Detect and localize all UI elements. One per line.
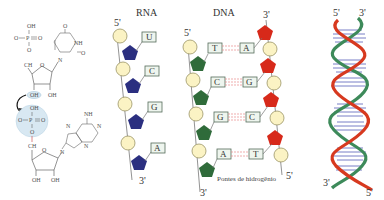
dna-title: DNA [213, 7, 235, 18]
rna-5-prime: 5' [114, 17, 121, 28]
phosphate-o-right-label: O [38, 35, 43, 41]
adenine-n1: N [66, 123, 71, 129]
rna-base-label: C [149, 66, 155, 76]
rna-phosphate [118, 97, 132, 111]
bottom-ribose-oh-left: OH [32, 177, 41, 183]
top-ribose-oh-right: OH [48, 92, 57, 98]
dna-phosphate [263, 42, 277, 56]
dna-sugar-right [257, 25, 273, 40]
helix-5-prime-bottom: 5' [366, 187, 373, 198]
dna-phosphate [186, 73, 200, 87]
dna-left-base-label: T [212, 43, 218, 53]
bottom-ribose-oh-right: OH [51, 177, 60, 183]
helix-3-prime-bottom: 3' [323, 177, 330, 188]
dna-phosphate [183, 40, 197, 54]
phosphate-o-left-label: O [14, 35, 19, 41]
dna-left-3-prime: 3' [200, 187, 207, 198]
rna-phosphate [116, 62, 130, 76]
dna-sugar-left [190, 56, 206, 71]
bottom-phosphate-o-right: O [41, 117, 46, 123]
dna-right-base-label: T [253, 149, 259, 159]
dna-left-base-label: G [217, 112, 224, 122]
hydrogen-bond [231, 152, 249, 156]
dna-phosphate [192, 144, 206, 158]
uracil-n: N [58, 57, 63, 63]
uracil-carbonyl-top: O [63, 23, 68, 29]
dna-phosphate [267, 76, 281, 90]
rna-3-prime: 3' [139, 175, 146, 186]
uracil-nh: NH [74, 40, 83, 46]
dna-phosphate [270, 111, 284, 125]
double-helix: 5' 3' [323, 7, 373, 198]
helix-5-prime-top: 5' [333, 7, 340, 18]
bottom-phosphate-o-left: O [18, 117, 23, 123]
rna-base-label: A [154, 143, 161, 153]
adenine-n3: N [84, 143, 89, 149]
dna-left-base-label: C [214, 77, 220, 87]
dna-phosphate [274, 148, 288, 162]
rna-base-label: G [151, 102, 158, 112]
bottom-ribose-ch2: CH [28, 143, 37, 149]
dna-sugar-left [196, 125, 212, 140]
top-ribose-oh-left: OH [30, 92, 39, 98]
hydrogen-bonds-label: Pontes de hidrogênio [217, 175, 277, 183]
rna-diagram: RNA 5' U C G A 3' [113, 7, 165, 186]
rna-sugar [131, 155, 147, 170]
dna-sugar-left [199, 162, 215, 177]
rna-sugar [125, 78, 141, 93]
dna-sugar-left [193, 90, 209, 105]
helix-3-prime-top: 3' [359, 7, 366, 18]
adenine-nh2: NH [84, 111, 93, 117]
phosphate-o-bottom-label: O [27, 47, 32, 53]
top-ribose-ch2: CH [24, 62, 33, 68]
phosphate-oh-label: OH [27, 23, 36, 29]
hydrogen-bond [228, 114, 246, 120]
chemical-structure: OH O P O O O NH O N C [14, 23, 102, 183]
rna-phosphate [121, 136, 135, 150]
dna-phosphate [189, 107, 203, 121]
bottom-phosphate-oh: OH [30, 105, 39, 111]
dna-right-base-label: A [243, 43, 250, 53]
dna-right-3-prime: 3' [263, 9, 270, 20]
bottom-phosphate-o-bottom: O [30, 129, 35, 135]
dna-right-base-label: G [246, 77, 253, 87]
adenine-n2: N [97, 123, 102, 129]
dna-right-base-label: C [249, 112, 255, 122]
hydrogen-bond [225, 79, 243, 85]
rna-base-label: U [146, 32, 153, 42]
dna-right-5-prime: 5' [286, 170, 293, 181]
phosphate-p-label: P [26, 35, 30, 41]
bottom-ribose [32, 150, 62, 176]
dna-sugar-right [260, 58, 276, 73]
dna-left-5-prime: 5' [184, 27, 191, 38]
rna-sugar [128, 114, 144, 129]
top-ribose-ring-o: O [40, 62, 45, 68]
rna-phosphate [113, 29, 127, 43]
bottom-ribose-ring-o: O [42, 147, 47, 153]
rna-title: RNA [136, 7, 158, 18]
dna-left-base-label: A [220, 149, 227, 159]
dna-diagram: DNA 5' 3' T A C G [183, 7, 293, 198]
dna-sugar-right [267, 130, 283, 145]
dna-sugar-right [263, 92, 279, 107]
top-phosphate-group: OH O P O O [14, 23, 43, 53]
uracil-carbonyl-right: O [81, 50, 86, 56]
hydrogen-bond [222, 46, 240, 50]
rna-sugar [122, 45, 138, 60]
